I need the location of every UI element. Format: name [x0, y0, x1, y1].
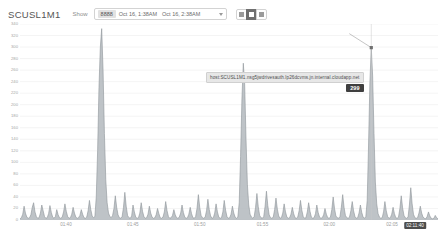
y-axis-tick-label: 200 — [11, 103, 18, 107]
y-axis-tick-label: 340 — [11, 22, 18, 26]
x-axis-tick-label: 01:45 — [127, 222, 139, 227]
range-from-value[interactable]: Oct 16, 1:38AM — [119, 11, 157, 17]
time-range-toolbar: Show 8888 Oct 16, 1:38AM Oct 16, 2:38AM — [73, 8, 268, 20]
series-svg — [20, 24, 438, 220]
hover-point-marker — [370, 46, 373, 49]
chart-canvas[interactable] — [20, 24, 438, 220]
x-axis-tick-label: 01:40 — [60, 222, 72, 227]
y-axis-tick-label: 80 — [13, 172, 18, 176]
range-to-value[interactable]: Oct 16, 2:38AM — [162, 11, 200, 17]
grid-view-icon — [249, 12, 254, 17]
x-axis-tick-label: 02:00 — [324, 222, 336, 227]
list-view-icon — [239, 12, 244, 17]
y-axis-tick-label: 160 — [11, 126, 18, 130]
chart-plot-area[interactable]: 0204060801001201401601802002202402602803… — [0, 24, 446, 244]
chart-panel: SCUSL1M1 Show 8888 Oct 16, 1:38AM Oct 16… — [0, 0, 446, 244]
y-axis-tick-label: 0 — [16, 218, 18, 222]
chevron-down-icon[interactable] — [219, 13, 223, 16]
y-axis-tick-label: 100 — [11, 160, 18, 164]
x-axis: 01:4001:4501:5001:5502:0002:0502:11:40 — [20, 222, 438, 234]
y-axis-tick-label: 40 — [13, 195, 18, 199]
range-preset-chip[interactable]: 8888 — [98, 10, 116, 18]
y-axis-tick-label: 140 — [11, 137, 18, 141]
x-axis-cursor-label: 02:11:40 — [404, 222, 426, 229]
y-axis: 0204060801001201401601802002202402602803… — [0, 24, 20, 220]
y-axis-tick-label: 240 — [11, 80, 18, 84]
y-axis-tick-label: 120 — [11, 149, 18, 153]
view-chart-button[interactable] — [256, 9, 267, 20]
time-range-picker[interactable]: 8888 Oct 16, 1:38AM Oct 16, 2:38AM — [94, 8, 228, 20]
x-axis-tick-label: 02:05 — [386, 222, 398, 227]
y-axis-tick-label: 60 — [13, 183, 18, 187]
x-axis-tick-label: 01:50 — [194, 222, 206, 227]
y-axis-tick-label: 220 — [11, 91, 18, 95]
y-axis-tick-label: 20 — [13, 206, 18, 210]
page-title: SCUSL1M1 — [8, 9, 61, 20]
y-axis-tick-label: 180 — [11, 114, 18, 118]
series-area — [20, 29, 438, 220]
y-axis-tick-label: 280 — [11, 57, 18, 61]
show-label: Show — [73, 11, 88, 17]
x-axis-tick-label: 01:55 — [257, 222, 269, 227]
view-mode-buttons — [237, 9, 267, 20]
y-axis-tick-label: 320 — [11, 34, 18, 38]
y-axis-tick-label: 300 — [11, 45, 18, 49]
y-axis-tick-label: 260 — [11, 68, 18, 72]
chart-view-icon — [259, 12, 264, 17]
